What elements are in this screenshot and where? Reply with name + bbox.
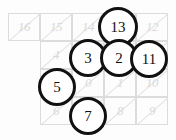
figure-canvas: 1615141240110689 13321157 [0,0,176,140]
circled-values-layer: 13321157 [0,0,176,140]
circled-value[interactable]: 7 [69,97,107,135]
circled-value[interactable]: 5 [38,68,76,106]
circled-value[interactable]: 11 [130,40,168,78]
